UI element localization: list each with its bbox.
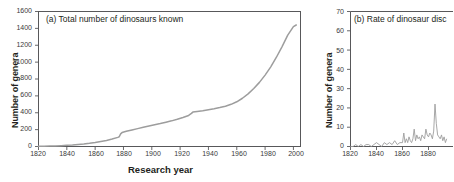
panel-a-xtick-1900: 1900 — [137, 150, 169, 157]
panel-b-ytick-60: 60 — [312, 27, 344, 34]
panel-a-y-tickmarks — [35, 12, 39, 147]
panel-a-x-axis-label: Research year — [128, 164, 193, 175]
panel-b-ytick-30: 30 — [312, 85, 344, 92]
panel-a-ytick-1600: 1600 — [0, 7, 32, 14]
panel-b-y-tickmarks — [347, 12, 351, 147]
panel-a-ytick-600: 600 — [0, 91, 32, 98]
panel-b-xtick-1880: 1880 — [412, 150, 444, 157]
panel-b-rate-curve — [351, 104, 447, 146]
panel-b-ytick-20: 20 — [312, 104, 344, 111]
panel-b-ytick-50: 50 — [312, 47, 344, 54]
panel-a-cumulative-curve — [39, 25, 297, 146]
panel-a-ytick-400: 400 — [0, 108, 32, 115]
panel-a-title: (a) Total number of dinosaurs known — [46, 14, 183, 24]
panel-b-ytick-70: 70 — [312, 8, 344, 15]
panel-a-xtick-1940: 1940 — [194, 150, 226, 157]
panel-a-ytick-1200: 1200 — [0, 41, 32, 48]
panel-a-ytick-1000: 1000 — [0, 58, 32, 65]
panel-a-total-dinosaurs: Number of genera (a) Total number of din… — [0, 0, 310, 182]
panel-a-xtick-1840: 1840 — [51, 150, 83, 157]
panel-b-title: (b) Rate of dinosaur disc — [354, 14, 447, 24]
panel-b-ytick-40: 40 — [312, 66, 344, 73]
panel-a-xtick-1820: 1820 — [22, 150, 54, 157]
panel-a-xtick-1880: 1880 — [108, 150, 140, 157]
panel-a-ytick-0: 0 — [0, 142, 32, 149]
panel-a-xtick-1960: 1960 — [223, 150, 255, 157]
panel-a-ytick-1400: 1400 — [0, 24, 32, 31]
panel-a-ytick-200: 200 — [0, 125, 32, 132]
panel-a-xtick-2000: 2000 — [280, 150, 312, 157]
dinosaur-discovery-figure: Number of genera (a) Total number of din… — [0, 0, 454, 182]
panel-b-ytick-0: 0 — [312, 142, 344, 149]
panel-b-ytick-10: 10 — [312, 123, 344, 130]
panel-a-ytick-800: 800 — [0, 74, 32, 81]
panel-b-discovery-rate: Number of genera (b) Rate of dinosaur di… — [310, 0, 454, 182]
